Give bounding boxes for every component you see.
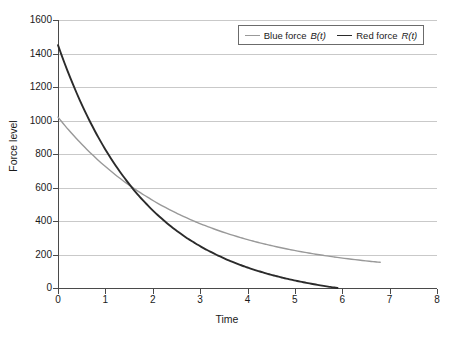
- legend-item-blue-force: Blue force B(t): [245, 30, 326, 41]
- legend-label-red-force: Red force: [356, 30, 397, 41]
- curve-blue-force: [58, 117, 380, 262]
- series-curves: [0, 0, 454, 338]
- legend-swatch-blue-force-icon: [245, 35, 260, 36]
- chart-legend: Blue force B(t) Red force R(t): [238, 25, 424, 45]
- curve-red-force: [58, 45, 338, 288]
- legend-fn-red-force: R(t): [401, 30, 417, 41]
- legend-swatch-red-force-icon: [337, 35, 352, 36]
- y-axis-title: Force level: [7, 91, 19, 201]
- legend-fn-blue-force: B(t): [311, 30, 326, 41]
- legend-item-red-force: Red force R(t): [337, 30, 417, 41]
- x-axis-title: Time: [0, 313, 454, 325]
- force-level-chart: 02004006008001000120014001600 012345678 …: [0, 0, 454, 338]
- legend-label-blue-force: Blue force: [264, 30, 307, 41]
